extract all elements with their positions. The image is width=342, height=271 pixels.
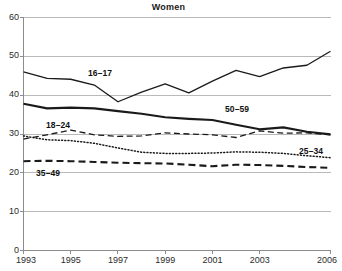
- x-axis-tick-label: 2003: [243, 255, 277, 265]
- x-axis-tick-label: 1995: [54, 255, 88, 265]
- series-label-25-34: 25–34: [299, 146, 323, 156]
- x-axis-tick-label: 2006: [310, 255, 342, 265]
- y-axis-tick-label: 10: [0, 206, 19, 216]
- series-label-50-59: 50–59: [225, 104, 249, 114]
- series-line-18-24: [24, 130, 331, 139]
- series-label-35-49: 35–49: [36, 168, 60, 178]
- y-axis-tick-label: 40: [0, 89, 19, 99]
- series-label-18-24: 18–24: [46, 120, 70, 130]
- x-axis-tick-label: 1999: [148, 255, 182, 265]
- x-axis-tick-label: 2001: [195, 255, 229, 265]
- y-axis-tick-label: 0: [0, 245, 19, 255]
- series-line-35-49: [24, 161, 331, 168]
- series-line-16-17: [24, 51, 331, 101]
- y-axis-tick-label: 20: [0, 167, 19, 177]
- y-axis-tick-label: 60: [0, 12, 19, 22]
- x-axis-tick-label: 1997: [101, 255, 135, 265]
- x-axis-tick-label: 1993: [9, 255, 43, 265]
- series-label-16-17: 16–17: [88, 68, 112, 78]
- series-line-25-34: [24, 136, 331, 158]
- y-axis-tick-label: 50: [0, 50, 19, 60]
- y-axis-tick-label: 30: [0, 128, 19, 138]
